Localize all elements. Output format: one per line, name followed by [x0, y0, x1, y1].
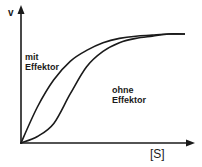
y-axis-label: v — [8, 8, 14, 18]
curve-mit-effektor — [21, 34, 185, 143]
annotation-mit-line2: Effektor — [25, 62, 59, 72]
annotation-ohne-effektor: ohne Effektor — [112, 85, 146, 105]
annotation-mit-effektor: mit Effektor — [25, 52, 59, 72]
curve-ohne-effektor — [21, 34, 185, 143]
annotation-mit-line1: mit — [25, 52, 59, 62]
annotation-ohne-line2: Effektor — [112, 95, 146, 105]
y-axis-arrow-icon — [18, 5, 25, 14]
annotation-ohne-line1: ohne — [112, 85, 146, 95]
x-axis-arrow-icon — [186, 140, 195, 147]
enzyme-kinetics-chart — [0, 0, 202, 167]
x-axis-label: [S] — [150, 148, 165, 160]
